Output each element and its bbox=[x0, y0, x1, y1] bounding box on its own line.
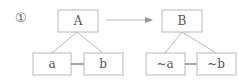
node-B-label: B bbox=[178, 14, 187, 28]
figure-number: ① bbox=[15, 10, 27, 25]
node-A-label: A bbox=[73, 14, 83, 28]
node-not-a-label: ~a bbox=[156, 57, 173, 71]
node-not-b-label: ~b bbox=[207, 57, 225, 71]
node-b-label: b bbox=[99, 57, 107, 71]
node-a-label: a bbox=[48, 57, 55, 71]
edge-A-b bbox=[77, 32, 103, 53]
edge-B-notb bbox=[182, 32, 216, 53]
right-tree: B ~a ~b bbox=[146, 10, 236, 75]
diagram: ① A a b B ~a ~b bbox=[0, 0, 239, 83]
edge-A-a bbox=[52, 32, 77, 53]
edge-B-nota bbox=[165, 32, 182, 53]
